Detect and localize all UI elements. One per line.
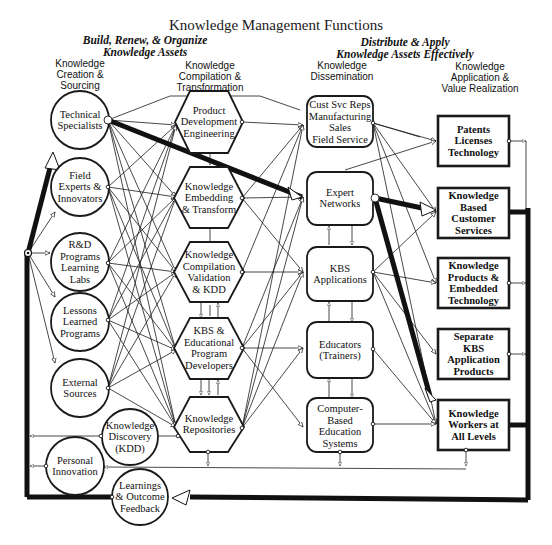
node-educators: Educators (Trainers): [307, 325, 373, 375]
node-cust-svc-reps: Cust Svc Reps Manufacturing Sales Field …: [307, 98, 373, 146]
node-technical-specialists: Technical Specialists: [52, 98, 108, 142]
column-header-creation: Knowledge Creation & Sourcing: [38, 58, 122, 91]
node-knowledge-embedding: Knowledge Embedding & Transform: [178, 176, 240, 220]
node-rd-programs: R&D Programs Learning Labs: [52, 236, 108, 288]
build-group-header: Build, Renew, & Organize Knowledge Asset…: [60, 34, 230, 58]
distribute-group-header: Distribute & Apply Knowledge Assets Effe…: [325, 36, 485, 60]
knowledge-management-diagram: Knowledge Management Functions Build, Re…: [0, 0, 552, 545]
node-knowledge-workers: Knowledge Workers at All Levels: [439, 402, 508, 448]
node-product-development: Product Development Engineering: [178, 100, 240, 144]
node-lessons-learned: Lessons Learned Programs: [52, 300, 108, 344]
node-personal-innovation: Personal Innovation: [46, 452, 104, 480]
node-separate-kbs-products: Separate KBS Application Products: [439, 330, 508, 378]
node-kbs-educational-developers: KBS & Educational Program Developers: [176, 323, 242, 373]
node-knowledge-repositories: Knowledge Repositories: [178, 410, 240, 438]
node-kbs-applications: KBS Applications: [307, 249, 373, 299]
node-patents-licenses: Patents Licenses Technology: [439, 118, 508, 164]
column-header-dissemination: Knowledge Dissemination: [300, 60, 384, 82]
node-external-sources: External Sources: [52, 370, 108, 406]
node-expert-networks: Expert Networks: [307, 174, 373, 222]
node-knowledge-compilation: Knowledge Compilation Validation & KDD: [178, 247, 240, 297]
column-header-compilation: Knowledge Compilation & Transformation: [168, 60, 252, 93]
node-knowledge-based-customer-services: Knowledge Based Customer Services: [439, 189, 508, 237]
diagram-title: Knowledge Management Functions: [0, 17, 552, 34]
node-knowledge-discovery: Knowledge Discovery (KDD): [103, 417, 157, 457]
column-header-application: Knowledge Application & Value Realizatio…: [425, 61, 535, 94]
node-computer-based-education: Computer- Based Education Systems: [307, 400, 373, 452]
node-knowledge-products: Knowledge Products & Embedded Technology: [439, 259, 508, 307]
node-field-experts: Field Experts & Innovators: [52, 164, 108, 210]
node-learnings-outcome-feedback: Learnings & Outcome Feedback: [112, 477, 168, 517]
